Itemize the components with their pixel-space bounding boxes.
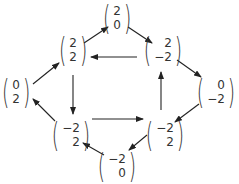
left-paren: ( — [103, 2, 110, 34]
left-paren: ( — [197, 76, 204, 108]
vector-top: 0 — [217, 78, 225, 92]
left-paren: ( — [144, 34, 151, 66]
vector-bottom: 2 — [166, 135, 174, 149]
vector-top: −2 — [156, 121, 174, 135]
node-vector-2-0: ( 20 ) — [100, 2, 134, 34]
vector-bottom: 0 — [113, 18, 121, 32]
right-paren: ) — [177, 119, 184, 151]
node-vector-0-2: ( 02 ) — [0, 76, 33, 108]
left-paren: ( — [52, 119, 59, 151]
right-paren: ) — [83, 119, 90, 151]
vector-bottom: −2 — [154, 50, 172, 64]
node-vector-neg2-2-right: ( −22 ) — [143, 119, 187, 151]
left-paren: ( — [98, 150, 105, 182]
left-paren: ( — [59, 34, 66, 66]
node-vector-neg2-0: ( −20 ) — [95, 150, 139, 182]
node-vector-0-neg2: ( 0−2 ) — [194, 76, 238, 108]
vector-top: 2 — [113, 4, 121, 18]
left-paren: ( — [146, 119, 153, 151]
vector-top: −2 — [62, 121, 80, 135]
vector-top: −2 — [108, 152, 126, 166]
right-paren: ) — [175, 34, 182, 66]
node-vector-2-neg2: ( 2−2 ) — [141, 34, 185, 66]
node-vector-2-2: ( 22 ) — [56, 34, 90, 66]
right-paren: ) — [23, 76, 30, 108]
right-paren: ) — [124, 2, 131, 34]
left-paren: ( — [2, 76, 9, 108]
edge-n02-n22 — [33, 63, 59, 84]
vector-bottom: −2 — [207, 92, 225, 106]
vector-bottom: 2 — [72, 135, 80, 149]
vector-top: 2 — [164, 36, 172, 50]
vector-bottom: 2 — [12, 92, 20, 106]
vector-bottom: 0 — [118, 166, 126, 180]
vector-top: 2 — [69, 36, 77, 50]
right-paren: ) — [228, 76, 235, 108]
node-vector-neg2-2-left: ( −22 ) — [49, 119, 93, 151]
right-paren: ) — [129, 150, 136, 182]
right-paren: ) — [80, 34, 87, 66]
vector-top: 0 — [12, 78, 20, 92]
vector-bottom: 2 — [69, 50, 77, 64]
state-transition-diagram: ( 20 ) ( 22 ) ( 2−2 ) ( 02 ) ( 0−2 ) ( −… — [0, 0, 239, 184]
